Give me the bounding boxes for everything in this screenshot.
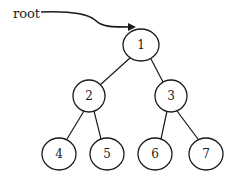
tree-node-2: 2 (73, 80, 105, 112)
node-label-6: 6 (151, 147, 159, 161)
edge-1-3 (151, 59, 163, 82)
tree-node-1: 1 (123, 29, 159, 61)
tree-node-4: 4 (42, 138, 76, 170)
tree-node-6: 6 (138, 138, 172, 170)
edge-2-4 (67, 111, 84, 139)
node-label-7: 7 (202, 147, 210, 161)
node-label-1: 1 (137, 38, 145, 52)
node-label-5: 5 (103, 147, 111, 161)
node-label-2: 2 (85, 89, 93, 103)
tree-node-5: 5 (90, 138, 124, 170)
tree-node-3: 3 (155, 80, 187, 112)
root-pointer-arrow (41, 12, 134, 27)
node-label-3: 3 (167, 89, 175, 103)
binary-tree-diagram: root 1 2 3 (0, 0, 237, 181)
edge-3-7 (177, 111, 198, 139)
tree-graphic: 1 2 3 4 5 6 7 (0, 0, 237, 181)
edge-3-6 (161, 111, 167, 139)
edge-2-5 (94, 111, 101, 139)
node-label-4: 4 (55, 147, 63, 161)
tree-node-7: 7 (189, 138, 223, 170)
edge-1-2 (100, 58, 130, 85)
